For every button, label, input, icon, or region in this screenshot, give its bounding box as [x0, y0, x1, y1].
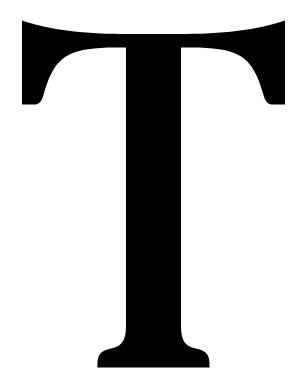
- glyph-canvas: Capital letter T in a black serif typefa…: [0, 0, 307, 387]
- letter-t-glyph: Capital letter T in a black serif typefa…: [0, 0, 307, 387]
